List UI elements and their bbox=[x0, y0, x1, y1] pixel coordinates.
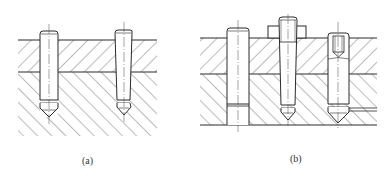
caption-a: (a) bbox=[82, 155, 93, 166]
internal-thread bbox=[333, 36, 344, 52]
figure-canvas bbox=[0, 0, 391, 181]
taper-pin-a2 bbox=[115, 22, 132, 122]
taper-pin-b1 bbox=[227, 20, 249, 132]
taper-pin-a1 bbox=[40, 24, 58, 124]
caption-b: (b) bbox=[290, 153, 302, 164]
panel-b bbox=[200, 14, 377, 132]
lower-plate-a bbox=[18, 72, 157, 136]
panel-a bbox=[18, 22, 157, 136]
upper-plate-a bbox=[18, 40, 157, 72]
